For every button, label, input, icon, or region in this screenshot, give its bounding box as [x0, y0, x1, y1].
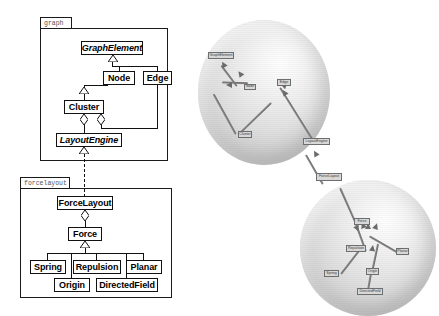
inter-sphere-arrowhead [311, 149, 319, 157]
agg-bar-edge [101, 128, 157, 129]
gen-drop-origin [71, 253, 72, 278]
class-edge[interactable]: Edge [143, 71, 172, 85]
aggregation-diamond-cluster [80, 114, 88, 125]
class-graphelement[interactable]: GraphElement [81, 41, 143, 55]
gen-drop-spring [47, 253, 48, 260]
sphere-arrowhead [369, 245, 376, 252]
generalization-arrow-node [79, 87, 89, 94]
sphere-node[interactable]: Force [354, 218, 370, 225]
class-forcelayout[interactable]: ForceLayout [57, 196, 113, 210]
realization-arrow-layoutengine [79, 147, 89, 154]
sphere-forcelayout [300, 180, 436, 316]
gen-bar-node [84, 85, 108, 86]
sphere-arrowhead [226, 82, 232, 88]
sphere-node[interactable]: Node [244, 84, 256, 90]
gen-drop-repulsion [96, 253, 97, 260]
sphere-node[interactable]: ForceLayout [316, 173, 342, 181]
figure-canvas: graph GraphElement Node Edge Cluster Lay… [0, 0, 439, 316]
sphere-node[interactable]: Cluster [238, 131, 252, 138]
sphere-node[interactable]: Origin [366, 268, 379, 275]
sphere-node[interactable]: Repulsion [346, 245, 366, 252]
class-directedfield[interactable]: DirectedField [96, 278, 158, 292]
class-node[interactable]: Node [103, 71, 135, 85]
class-force[interactable]: Force [68, 227, 102, 241]
sphere-node[interactable]: Edge [277, 79, 291, 86]
realization-dashed-line [84, 154, 85, 197]
generalization-arrow-graphelement [108, 55, 118, 62]
gen-bar-graphelement [119, 66, 158, 67]
aggregation-diamond-forcelayout [81, 210, 89, 221]
sphere-node[interactable]: Spring [324, 270, 339, 277]
sphere-node[interactable]: DirectedField [357, 288, 383, 295]
class-layoutengine[interactable]: LayoutEngine [56, 133, 122, 147]
class-planar[interactable]: Planar [126, 260, 162, 274]
class-spring[interactable]: Spring [30, 260, 66, 274]
generalization-arrow-force [80, 241, 90, 248]
agg-stem-cluster [84, 125, 85, 133]
gen-tick-node [107, 85, 108, 86]
class-cluster[interactable]: Cluster [64, 100, 104, 114]
sphere-node[interactable]: GraphElement [208, 52, 234, 59]
aggregation-diamond-edge [97, 114, 105, 125]
sphere-node[interactable]: LayoutEngine [303, 138, 330, 145]
agg-riser-edge [157, 85, 158, 129]
gen-drop-planar [143, 253, 144, 260]
class-repulsion[interactable]: Repulsion [73, 260, 121, 274]
sphere-node[interactable]: Planar [396, 248, 409, 255]
sphere-forcelayout-texture [300, 180, 436, 316]
class-origin[interactable]: Origin [54, 278, 90, 292]
